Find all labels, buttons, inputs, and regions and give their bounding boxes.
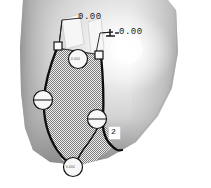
datum-square-right[interactable]	[95, 51, 103, 59]
cad-canvas[interactable]	[0, 0, 211, 188]
dimension-2-value: 0.00	[119, 28, 143, 37]
callout-sheet-right	[88, 18, 104, 53]
dimension-1-value: 0.00	[78, 13, 102, 22]
datum-square-left[interactable]	[54, 42, 62, 50]
balloon-top-text: 0.000	[71, 58, 80, 61]
specular-highlight-core	[111, 34, 143, 64]
cad-viewport[interactable]: 0.00 0.00 2 0.000 0.000	[0, 0, 211, 188]
balloon-bottom-text: 0.000	[66, 166, 75, 169]
face-label-value: 2	[111, 128, 116, 136]
